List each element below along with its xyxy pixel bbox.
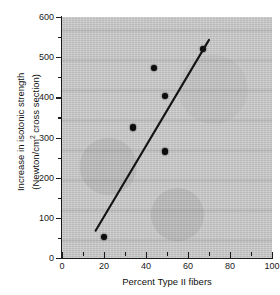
x-axis-tick-label: 40: [141, 261, 151, 271]
x-axis-tick-label: 100: [264, 261, 279, 271]
x-axis-tick-major: [272, 252, 273, 258]
data-point: [200, 46, 206, 52]
y-axis-tick-major: [56, 97, 62, 98]
y-axis-tick-minor: [58, 198, 62, 199]
x-axis-tick-minor: [209, 252, 210, 256]
x-axis-tick-minor: [83, 252, 84, 256]
x-axis-title-text: Percent Type II fibers: [122, 276, 212, 287]
y-axis-tick-major: [56, 138, 62, 139]
x-axis-tick-label: 60: [183, 261, 193, 271]
x-axis-tick-major: [146, 252, 147, 258]
y-axis-title-superscript: 2: [29, 135, 36, 139]
y-axis-tick-major: [56, 258, 62, 259]
y-axis-tick-label: 0: [49, 253, 54, 263]
y-axis-title-line1: Increase in isotonic strength: [15, 73, 26, 191]
y-axis-title: Increase in isotonic strength (Newton/cm…: [15, 37, 43, 227]
x-axis-tick-label: 80: [225, 261, 235, 271]
y-axis-tick-minor: [58, 238, 62, 239]
y-axis-tick-major: [56, 17, 62, 18]
x-axis-tick-minor: [125, 252, 126, 256]
y-axis-tick-major: [56, 178, 62, 179]
x-axis-title: Percent Type II fibers: [62, 276, 272, 287]
y-axis-tick-major: [56, 218, 62, 219]
y-axis-tick-minor: [58, 117, 62, 118]
x-axis-line: [61, 258, 273, 259]
x-axis-tick-label: 20: [99, 261, 109, 271]
x-axis-tick-major: [62, 252, 63, 258]
y-axis-tick-major: [56, 57, 62, 58]
data-point: [162, 148, 168, 154]
y-axis-title-line2-suffix: cross section): [30, 74, 41, 135]
scatter-plot-figure: 0100200300400500600 020406080100 Percent…: [0, 0, 280, 295]
x-axis-tick-major: [104, 252, 105, 258]
paper-grain-texture: [62, 17, 272, 258]
x-axis-tick-label: 0: [59, 261, 64, 271]
plot-area: [62, 17, 272, 258]
x-axis-tick-major: [188, 252, 189, 258]
y-axis-tick-minor: [58, 77, 62, 78]
paper-bleedthrough-texture: [62, 17, 272, 258]
y-axis-tick-minor: [58, 37, 62, 38]
data-point: [101, 234, 107, 240]
x-axis-tick-major: [230, 252, 231, 258]
x-axis-tick-minor: [167, 252, 168, 256]
x-axis-tick-minor: [251, 252, 252, 256]
y-axis-tick-label: 600: [39, 12, 54, 22]
y-axis-title-line2-prefix: (Newton/cm: [30, 139, 41, 190]
y-axis-tick-minor: [58, 158, 62, 159]
y-axis-title-line2: (Newton/cm2 cross section): [28, 37, 43, 227]
